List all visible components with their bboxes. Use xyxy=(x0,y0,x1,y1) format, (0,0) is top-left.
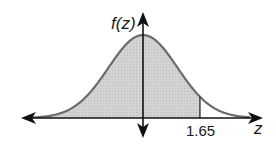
y-axis-label: f(z) xyxy=(111,14,136,33)
shaded-area-left-of-marker xyxy=(30,35,200,118)
marker-value-label: 1.65 xyxy=(186,122,215,139)
normal-distribution-diagram: f(z) z 1.65 xyxy=(0,0,276,150)
x-axis-label: z xyxy=(253,119,263,138)
normal-curve-plot: f(z) z 1.65 xyxy=(0,0,276,150)
